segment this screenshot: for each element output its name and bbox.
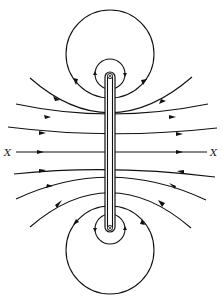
arrow-icon <box>93 71 97 75</box>
arrow-icon <box>93 228 97 232</box>
arrow-icon <box>46 184 53 188</box>
arrow-icon <box>169 115 176 119</box>
arrow-icon <box>37 150 44 154</box>
rod-bottom-end-dot <box>109 227 111 229</box>
axis-label-left: X <box>3 147 12 158</box>
arrow-icon <box>176 150 183 154</box>
rod-top-end-dot <box>109 75 111 77</box>
rod <box>105 72 115 232</box>
arrow-icon <box>123 226 127 230</box>
arrow-icon <box>176 132 183 136</box>
arrow-icon <box>44 115 51 119</box>
axis-label-right: X <box>209 147 218 158</box>
field-lines-diagram: X X <box>0 0 223 302</box>
arrow-icon <box>123 73 127 77</box>
arrow-icon <box>39 131 46 135</box>
